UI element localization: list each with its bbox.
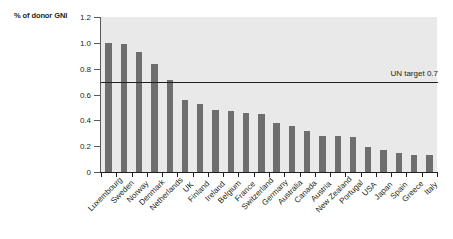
y-tick-mark <box>94 95 100 96</box>
bar <box>380 150 386 172</box>
bar <box>243 113 249 172</box>
x-tick-mark <box>101 173 102 177</box>
x-tick-label: New Zealand <box>342 180 348 186</box>
y-tick-mark <box>94 172 100 173</box>
x-tick-label: Belgium <box>235 180 241 186</box>
bar <box>335 136 341 172</box>
x-tick-label: Finland <box>204 180 210 186</box>
x-tick-mark <box>361 173 362 177</box>
x-tick-label-text: Italy <box>423 180 440 197</box>
x-tick-label: Denmark <box>158 180 164 186</box>
bar <box>228 111 234 172</box>
y-tick-mark <box>94 120 100 121</box>
x-tick-mark <box>238 173 239 177</box>
x-tick-label: Italy <box>433 180 439 186</box>
bar <box>151 64 157 173</box>
x-tick-mark <box>391 173 392 177</box>
x-tick-mark <box>422 173 423 177</box>
y-tick-mark <box>94 17 100 18</box>
y-tick-label: 1.2 <box>58 13 91 22</box>
bar <box>396 153 402 172</box>
bar <box>411 155 417 172</box>
x-tick-mark <box>376 173 377 177</box>
x-tick-mark <box>147 173 148 177</box>
bar <box>182 100 188 172</box>
x-tick-mark <box>300 173 301 177</box>
x-tick-label: Luxembourg <box>113 180 119 186</box>
un-target-label: UN target 0.7 <box>390 69 438 78</box>
y-tick-label: 1.0 <box>58 38 91 47</box>
bar <box>319 136 325 172</box>
bar <box>350 137 356 172</box>
y-tick-label: 0.2 <box>58 142 91 151</box>
bar <box>273 123 279 172</box>
bar <box>136 52 142 172</box>
bar <box>212 110 218 172</box>
y-tick-label: 0.6 <box>58 90 91 99</box>
x-tick-label: UK <box>189 180 195 186</box>
x-tick-label: Norway <box>143 180 149 186</box>
bar <box>197 104 203 172</box>
x-tick-label: Australia <box>296 180 302 186</box>
y-tick-mark <box>94 146 100 147</box>
x-tick-label: Japan <box>388 180 394 186</box>
x-tick-mark <box>437 173 438 177</box>
bar <box>105 43 111 172</box>
x-tick-mark <box>406 173 407 177</box>
x-tick-mark <box>223 173 224 177</box>
bar <box>258 114 264 172</box>
x-tick-mark <box>132 173 133 177</box>
x-tick-label: USA <box>372 180 378 186</box>
x-tick-label: Greece <box>418 180 424 186</box>
un-target-line <box>101 82 438 83</box>
bar <box>426 155 432 172</box>
bar <box>289 126 295 173</box>
x-tick-mark <box>254 173 255 177</box>
x-tick-mark <box>208 173 209 177</box>
x-tick-label: Sweden <box>128 180 134 186</box>
y-axis-line <box>100 17 101 172</box>
x-tick-label: Canada <box>311 180 317 186</box>
bar <box>121 44 127 172</box>
x-tick-label: Germany <box>281 180 287 186</box>
bar <box>304 131 310 172</box>
x-tick-mark <box>284 173 285 177</box>
y-tick-mark <box>94 43 100 44</box>
x-tick-mark <box>330 173 331 177</box>
x-tick-label: Netherlands <box>174 180 180 186</box>
y-tick-label: 0.8 <box>58 64 91 73</box>
x-tick-label: Portugal <box>357 180 363 186</box>
y-tick-label: 0 <box>58 168 91 177</box>
x-tick-mark <box>162 173 163 177</box>
y-tick-mark <box>94 69 100 70</box>
bar <box>365 147 371 172</box>
x-tick-label: Switzerland <box>265 180 271 186</box>
bar <box>167 80 173 172</box>
x-tick-label: Ireland <box>220 180 226 186</box>
x-tick-mark <box>193 173 194 177</box>
y-tick-label: 0.4 <box>58 116 91 125</box>
x-tick-label: France <box>250 180 256 186</box>
x-tick-label: Austria <box>326 180 332 186</box>
bar-chart: % of donor GNI 00.20.40.60.81.01.2 Luxem… <box>0 0 453 239</box>
x-tick-label: Spain <box>403 180 409 186</box>
x-tick-mark <box>315 173 316 177</box>
